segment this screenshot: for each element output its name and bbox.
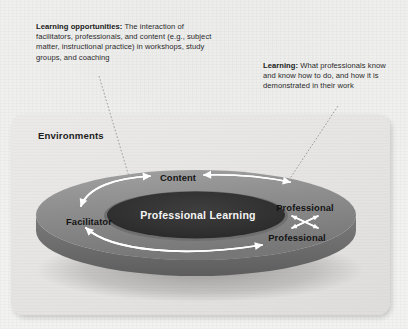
professional-learning-diagram: Content Facilitator Professional Profess… bbox=[0, 0, 408, 329]
leader-line-learning bbox=[285, 106, 338, 186]
ring-label-facilitator: Facilitator bbox=[66, 216, 112, 227]
leader-line-learning-opportunities bbox=[99, 76, 130, 180]
ring-label-professional-lower: Professional bbox=[268, 232, 325, 243]
ring-label-professional-upper: Professional bbox=[276, 202, 333, 213]
ring-label-content: Content bbox=[160, 172, 196, 183]
core-label-professional-learning: Professional Learning bbox=[140, 209, 255, 221]
leader-lines bbox=[99, 76, 338, 186]
